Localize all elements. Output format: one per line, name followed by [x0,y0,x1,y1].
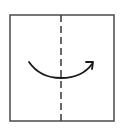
fold-diagram [0,0,131,132]
paper-square [10,15,114,121]
